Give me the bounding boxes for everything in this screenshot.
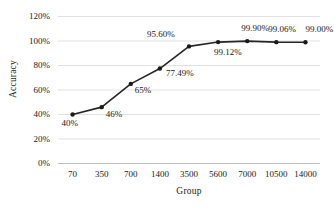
data-point-label: 65% <box>135 86 152 95</box>
y-tick-label: 100% <box>6 37 50 46</box>
y-tick-label: 40% <box>6 110 50 119</box>
x-tick-label: 14000 <box>285 170 325 179</box>
y-tick-label: 60% <box>6 86 50 95</box>
y-tick-label: 120% <box>6 12 50 21</box>
data-point-marker <box>216 40 220 44</box>
data-point-label: 95.60% <box>147 30 175 39</box>
data-point-label: 99.90% <box>241 24 269 33</box>
data-point-marker <box>158 66 162 70</box>
data-point-label: 99.00% <box>305 25 333 34</box>
y-tick-label: 80% <box>6 61 50 70</box>
data-point-label: 77.49% <box>166 69 194 78</box>
data-point-label: 46% <box>106 110 123 119</box>
data-point-label: 99.06% <box>268 25 296 34</box>
data-point-marker <box>303 40 307 44</box>
y-tick-label: 0% <box>6 159 50 168</box>
data-point-label: 40% <box>62 119 79 128</box>
gridlines <box>58 17 320 164</box>
data-point-marker <box>274 40 278 44</box>
data-point-marker <box>187 44 191 48</box>
y-tick-label: 20% <box>6 135 50 144</box>
data-point-marker <box>129 82 133 86</box>
data-point-marker <box>245 39 249 43</box>
accuracy-vs-group-line-chart: Accuracy Group 0%20%40%60%80%100%120% 70… <box>0 0 334 209</box>
data-point-marker <box>99 105 103 109</box>
data-point-marker <box>70 112 74 116</box>
data-point-label: 99.12% <box>214 48 242 57</box>
